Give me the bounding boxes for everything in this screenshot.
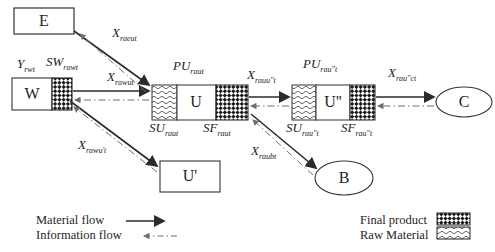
node-u2-label: U'' [324, 94, 341, 110]
legend-material-flow-label: Material flow [36, 214, 104, 227]
label-su-rau2t: SUrau''t [286, 121, 319, 138]
node-b-label: B [339, 170, 350, 186]
label-x-raeut: Xraeut [112, 26, 137, 43]
legend-raw-material-swatch [437, 227, 470, 239]
node-w-box [12, 78, 72, 110]
label-su-raut: SUraut [149, 121, 178, 138]
label-pu-raut: PUraut [173, 59, 204, 76]
label-x-raubt: Xraubt [251, 144, 276, 161]
label-sf-rau2t: SFrau''t [341, 121, 372, 138]
legend-information-flow-label: Information flow [36, 229, 122, 242]
u2-raw-material-cell [292, 85, 316, 120]
node-w-label: W [24, 86, 39, 102]
label-x-rauu2t: Xrauu''t [247, 68, 276, 85]
label-sf-raut: SFraut [203, 121, 231, 138]
label-x-rawu1t: Xrawu't [78, 138, 106, 155]
label-sw-rawt: SWrawt [46, 55, 78, 72]
node-c-label: C [459, 94, 470, 110]
label-x-rawut: Xrawut [107, 70, 134, 87]
u2-final-product-cell [350, 85, 375, 120]
node-u-label: U [190, 94, 202, 110]
node-u1-label: U' [183, 168, 197, 184]
w-final-product-cell [52, 78, 72, 110]
supply-chain-flow-diagram: E W U U'' U' B C Xraeut Yrwt SWrawt Xraw… [0, 0, 495, 252]
legend-final-product-swatch [437, 213, 470, 225]
node-e-label: E [39, 13, 49, 29]
legend-final-product-label: Final product [360, 214, 427, 227]
legend-raw-material-label: Raw Material [360, 229, 428, 242]
label-pu-rau2t: PUrau''t [303, 57, 337, 74]
flow-w-to-u1 [70, 101, 157, 166]
label-x-rau2ct: Xrau''ct [388, 66, 416, 83]
u-raw-material-cell [152, 85, 177, 120]
label-y-rwt: Yrwt [17, 57, 35, 74]
u-final-product-cell [216, 85, 248, 120]
